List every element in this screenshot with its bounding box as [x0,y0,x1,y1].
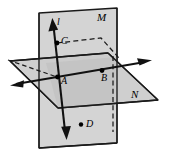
point-c-label: C [61,36,68,46]
point-c-dot [55,41,60,46]
plane-m-label: M [97,12,106,23]
point-d-dot [79,122,83,126]
point-b-label: B [101,73,107,83]
axis-right-arrowhead [137,58,152,65]
point-a-label: A [61,76,67,86]
diagram-canvas [0,0,169,158]
plane-n-label: N [131,89,138,100]
line-l-label: l [57,17,60,27]
point-a-dot [55,75,60,80]
axis-left-arrowhead [10,80,24,87]
point-d-label: D [86,119,93,129]
geometry-figure: M N l A B C D [0,0,169,158]
